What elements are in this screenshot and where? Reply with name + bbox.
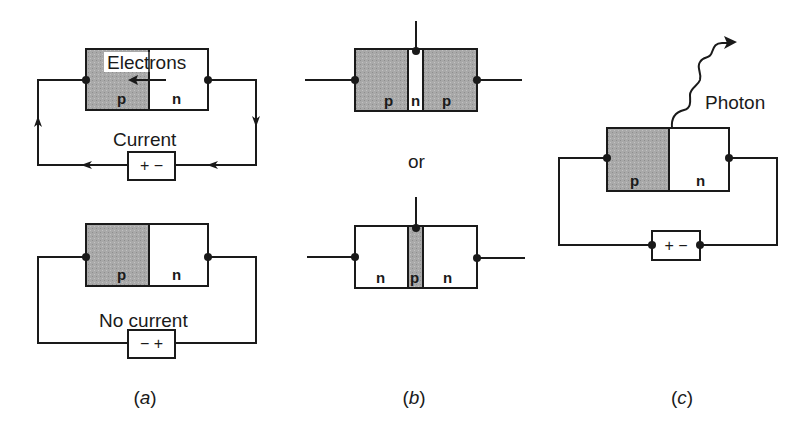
panel-c-light-emitting-diode: p n Photon + −	[559, 36, 777, 260]
contact-dot	[82, 253, 90, 261]
photon-label: Photon	[705, 92, 765, 113]
contact-dot	[725, 154, 733, 162]
photon-wave-icon	[672, 43, 728, 128]
caption-b: (b)	[402, 387, 425, 408]
battery-polarity: + −	[664, 237, 687, 254]
contact-dot	[351, 253, 359, 261]
semiconductor-junction-diagram: Electrons p n Current + − p n No current…	[0, 0, 810, 435]
panel-b-npn-transistor: n p n	[307, 197, 525, 288]
contact-dot	[412, 224, 420, 232]
panel-a-reverse-bias: p n No current − +	[38, 224, 256, 358]
contact-dot	[412, 47, 420, 55]
p-region-label: p	[630, 172, 639, 189]
caption-c: (c)	[671, 387, 693, 408]
region-label: p	[410, 269, 419, 286]
caption-a: (a)	[133, 387, 156, 408]
region-label: p	[384, 92, 393, 109]
region-label: n	[443, 269, 452, 286]
contact-dot	[648, 241, 656, 249]
contact-dot	[473, 76, 481, 84]
n-region-label: n	[696, 172, 705, 189]
contact-dot	[696, 241, 704, 249]
panel-a-forward-bias: Electrons p n Current + −	[34, 49, 260, 180]
p-region	[355, 49, 408, 111]
contact-dot	[82, 76, 90, 84]
current-label: Current	[113, 129, 177, 150]
contact-dot	[351, 76, 359, 84]
n-region-label: n	[172, 266, 181, 283]
or-label: or	[408, 151, 426, 172]
n-region-label: n	[172, 90, 181, 107]
p-region-label: p	[117, 90, 126, 107]
region-label: n	[376, 269, 385, 286]
p-region-label: p	[117, 266, 126, 283]
no-current-label: No current	[99, 310, 188, 331]
contact-dot	[204, 76, 212, 84]
region-label: p	[442, 92, 451, 109]
contact-dot	[473, 254, 481, 262]
battery-polarity: − +	[140, 335, 163, 352]
panel-b-pnp-transistor: p n p	[305, 21, 522, 111]
region-label: n	[411, 92, 420, 109]
battery-polarity: + −	[140, 157, 163, 174]
electrons-label: Electrons	[107, 52, 186, 73]
contact-dot	[603, 154, 611, 162]
contact-dot	[204, 253, 212, 261]
